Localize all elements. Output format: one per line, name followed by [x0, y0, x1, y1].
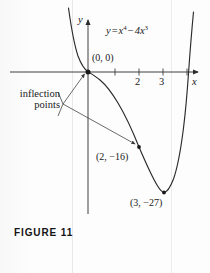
- equation-operator: −: [127, 25, 135, 36]
- x-tick-label-3: 3: [159, 76, 164, 87]
- inflection-callout-line-2: points: [4, 99, 60, 110]
- leader-line-to-origin: [63, 74, 85, 104]
- inflection-callout-line-1: inflection: [4, 88, 60, 99]
- x-axis-label: x: [192, 76, 197, 87]
- equation-term2-exponent: 3: [145, 24, 148, 31]
- origin-point-label: (0, 0): [92, 53, 114, 64]
- origin-point-marker: [86, 70, 91, 75]
- y-axis-label: y: [78, 14, 83, 25]
- leader-line-to-inflection: [63, 104, 135, 144]
- equation-lhs: y: [106, 25, 111, 36]
- equation-label: y=x4−4x3: [106, 25, 148, 36]
- inflection-point-2-marker: [137, 145, 141, 149]
- equation-equals: =: [111, 25, 119, 36]
- minimum-point-label: (3, −27): [130, 198, 162, 209]
- minimum-point-marker: [162, 191, 166, 195]
- figure-container: y=x4−4x3 (0, 0) 2 3 x y inflection point…: [0, 0, 210, 273]
- figure-caption: FIGURE 11: [14, 228, 73, 239]
- x-tick-label-2: 2: [135, 76, 140, 87]
- inflection-point-2-label: (2, −16): [96, 152, 128, 163]
- inflection-points-callout: inflection points: [4, 88, 60, 111]
